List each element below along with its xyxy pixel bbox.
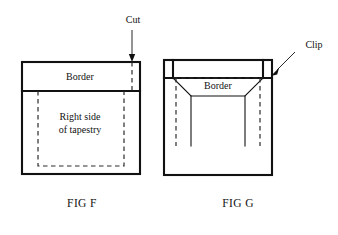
figure-fig-f: Cut Border Right side of tapestry FIG F: [22, 14, 140, 209]
fig-g-caption: FIG G: [222, 197, 254, 209]
clip-callout-label: Clip: [305, 39, 322, 50]
fig-g-border-label: Border: [204, 80, 232, 91]
fig-f-border-label: Border: [66, 71, 94, 82]
diagram-root: Cut Border Right side of tapestry FIG F: [0, 0, 338, 235]
fig-f-body-label-line2: of tapestry: [59, 124, 102, 135]
fig-f-body-label-line1: Right side: [60, 111, 101, 122]
clip-callout-arrow-shaft: [277, 52, 295, 70]
fig-f-caption: FIG F: [67, 197, 97, 209]
figure-canvas: Cut Border Right side of tapestry FIG F: [0, 0, 338, 235]
figure-fig-g: Clip Border FIG G: [164, 39, 323, 209]
cut-callout-arrow-head: [129, 54, 135, 62]
cut-callout-label: Cut: [126, 14, 141, 25]
